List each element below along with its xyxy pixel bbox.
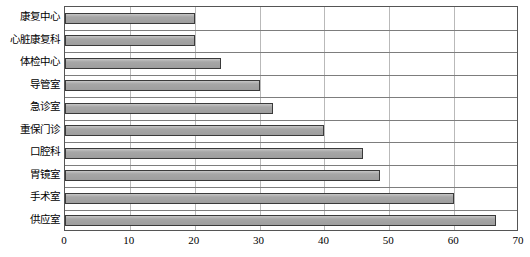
y-axis-label: 口腔科 (0, 146, 60, 157)
y-axis-label: 导管室 (0, 79, 60, 90)
x-axis-tick-70: 70 (513, 234, 524, 246)
bar (65, 13, 195, 24)
bar-chart: 康复中心心脏康复科体检中心导管室急诊室重保门诊口腔科胃镜室手术室供应室 0102… (0, 0, 530, 257)
bar-row (65, 165, 517, 188)
y-axis-label: 供应室 (0, 214, 60, 225)
bar-row (65, 30, 517, 53)
bar-row (65, 142, 517, 165)
x-axis-tick-10: 10 (123, 234, 134, 246)
x-axis-tick-20: 20 (188, 234, 199, 246)
bar (65, 125, 324, 136)
x-axis-tick-labels: 010203040506070 (64, 234, 518, 250)
y-axis-label: 手术室 (0, 191, 60, 202)
x-axis-tick-50: 50 (383, 234, 394, 246)
y-axis-label: 急诊室 (0, 101, 60, 112)
x-axis-tick-40: 40 (318, 234, 329, 246)
x-axis-tick-30: 30 (253, 234, 264, 246)
bar (65, 170, 380, 181)
bar (65, 215, 496, 226)
bar-row (65, 75, 517, 98)
bar (65, 58, 221, 69)
y-axis-label: 重保门诊 (0, 124, 60, 135)
y-axis-label: 体检中心 (0, 56, 60, 67)
x-axis-tick-60: 60 (448, 234, 459, 246)
bar-row (65, 187, 517, 210)
y-axis-label: 康复中心 (0, 11, 60, 22)
plot-area (64, 6, 518, 231)
bar-row (65, 52, 517, 75)
x-axis-tick-0: 0 (61, 234, 67, 246)
bar (65, 148, 363, 159)
bar-row (65, 97, 517, 120)
y-axis-label: 胃镜室 (0, 169, 60, 180)
bar (65, 80, 260, 91)
bar (65, 35, 195, 46)
bar-row (65, 210, 517, 232)
y-axis-category-labels: 康复中心心脏康复科体检中心导管室急诊室重保门诊口腔科胃镜室手术室供应室 (0, 6, 60, 231)
y-axis-label: 心脏康复科 (0, 34, 60, 45)
bar (65, 103, 273, 114)
bar-row (65, 7, 517, 30)
bar-row (65, 120, 517, 143)
bar (65, 193, 454, 204)
